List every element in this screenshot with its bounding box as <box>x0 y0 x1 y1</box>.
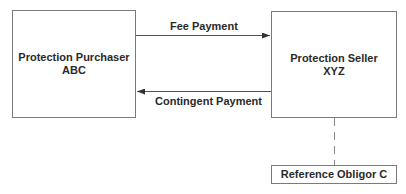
reference-obligor-box: Reference Obligor C <box>271 165 397 184</box>
purchaser-name: Protection Purchaser <box>18 51 129 64</box>
purchaser-id: ABC <box>18 64 129 77</box>
fee-payment-label: Fee Payment <box>170 20 238 32</box>
seller-id: XYZ <box>290 65 377 78</box>
reference-obligor-label: Reference Obligor C <box>281 168 387 181</box>
protection-purchaser-box: Protection Purchaser ABC <box>12 10 136 118</box>
contingent-payment-label: Contingent Payment <box>155 95 262 107</box>
protection-seller-box: Protection Seller XYZ <box>271 11 397 118</box>
seller-name: Protection Seller <box>290 52 377 65</box>
